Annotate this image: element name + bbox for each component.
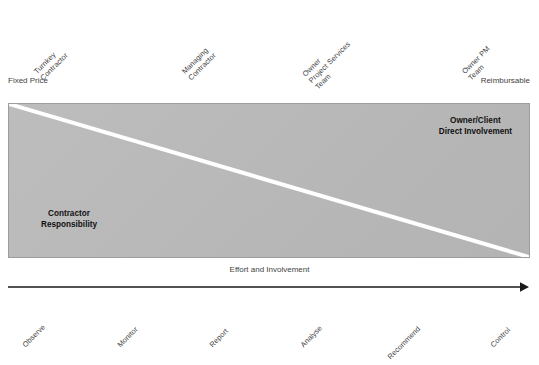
- responsibility-continuum-diagram: Turnkey Contractor Managing Contractor O…: [0, 0, 539, 365]
- bottom-axis-label-report: Report: [207, 327, 230, 350]
- bottom-axis-label-monitor: Monitor: [115, 325, 139, 349]
- label-line: Analyse: [298, 324, 324, 350]
- label-line: Monitor: [115, 325, 139, 349]
- bottom-axis-label-analyse: Analyse: [298, 324, 324, 350]
- label-line: Control: [488, 325, 512, 349]
- bottom-axis-label-recommend: Recommend: [385, 324, 422, 361]
- bottom-axis-label-control: Control: [488, 325, 512, 349]
- bottom-axis-label-observe: Observe: [20, 322, 47, 349]
- bottom-axis-labels: Observe Monitor Report Analyse Recommend…: [0, 0, 539, 365]
- label-line: Report: [207, 327, 230, 350]
- label-line: Observe: [20, 322, 47, 349]
- label-line: Recommend: [385, 324, 422, 361]
